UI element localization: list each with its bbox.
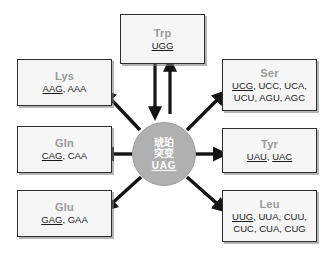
center-codon: UAG — [152, 160, 177, 172]
aa-label-lys: Lys — [55, 70, 74, 83]
node-box-glu[interactable]: Glu GAG, GAA — [17, 190, 112, 237]
node-box-gln[interactable]: Gln CAG, CAA — [17, 126, 112, 173]
aa-label-glu: Glu — [55, 201, 74, 214]
codon-list-glu: GAG, GAA — [41, 214, 87, 226]
node-box-trp[interactable]: Trp UGG — [120, 14, 205, 64]
codon-list-leu-line2: CUC, CUA, CUG — [233, 223, 305, 235]
aa-label-leu: Leu — [259, 198, 279, 211]
center-line-2: 突变 — [154, 148, 175, 160]
codon-list-lys: AAG, AAA — [43, 83, 87, 95]
codon-list-ser-line1: UCG, UCC, UCA, — [232, 80, 307, 92]
aa-label-tyr: Tyr — [261, 138, 278, 151]
arrow-to-ser — [187, 95, 222, 130]
center-line-1: 琥珀 — [154, 137, 175, 149]
codon-list-leu-line1: UUG, UUA, CUU, — [232, 211, 307, 223]
arrow-to-leu — [187, 177, 222, 208]
node-box-tyr[interactable]: Tyr UAU, UAC — [222, 128, 317, 173]
node-box-ser[interactable]: Ser UCG, UCC, UCA, UCU, AGU, AGC — [222, 59, 317, 111]
aa-label-gln: Gln — [55, 137, 74, 150]
arrow-to-glu — [108, 177, 141, 207]
aa-label-trp: Trp — [154, 27, 172, 40]
aa-label-ser: Ser — [260, 67, 278, 80]
codon-list-trp: UGG — [152, 40, 174, 52]
codon-list-tyr: UAU, UAC — [247, 151, 292, 163]
codon-list-ser-line2: UCU, AGU, AGC — [234, 92, 305, 104]
amber-mutation-diagram: Trp UGG Lys AAG, AAA Ser UCG, UCC, UCA, … — [0, 0, 326, 259]
codon-list-gln: CAG, CAA — [42, 150, 87, 162]
node-box-leu[interactable]: Leu UUG, UUA, CUU, CUC, CUA, CUG — [222, 190, 317, 242]
center-node-amber-mutation[interactable]: 琥珀 突变 UAG — [132, 122, 196, 186]
node-box-lys[interactable]: Lys AAG, AAA — [17, 59, 112, 106]
